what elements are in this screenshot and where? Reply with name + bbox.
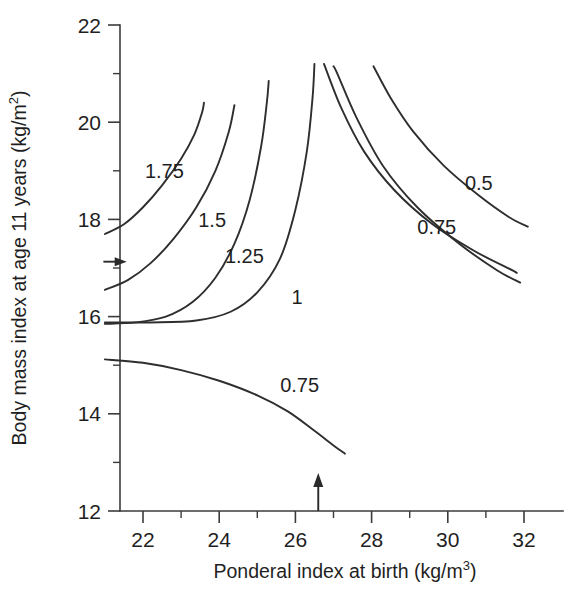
y-tick-label-20: 20: [78, 111, 101, 134]
x-axis-title-text: Ponderal index at birth (kg/m: [213, 560, 462, 582]
y-axis-title-text: Body mass index at age 11 years (kg/m: [8, 104, 30, 445]
y-tick-label-22: 22: [78, 14, 101, 37]
x-axis-tick-labels: 222426283032: [131, 528, 535, 551]
x-axis-ticks: [143, 511, 524, 523]
x-tick-label-28: 28: [360, 528, 383, 551]
contour-label-1: 1: [292, 286, 303, 308]
x-tick-label-32: 32: [512, 528, 535, 551]
contour-plot-figure: 121416182022 222426283032 1.751.51.2510.…: [0, 0, 571, 591]
x-axis-title: Ponderal index at birth (kg/m3): [213, 558, 476, 582]
contour-label-0-75-lower: 0.75: [280, 374, 319, 396]
x-tick-label-30: 30: [436, 528, 459, 551]
contour-0-5: [374, 66, 528, 226]
y-axis-title-superscript: 2: [6, 97, 21, 104]
x-axis-title-superscript: 3: [463, 558, 470, 573]
svg-text:Body mass index at age 11 year: Body mass index at age 11 years (kg/m2): [6, 91, 30, 446]
x-axis-arrow-marker-head: [313, 473, 323, 487]
contour-labels-group: 1.751.51.2510.50.750.75: [145, 160, 493, 396]
axes-group: [120, 25, 563, 511]
x-tick-label-22: 22: [131, 528, 154, 551]
svg-text:Ponderal index at birth (kg/m3: Ponderal index at birth (kg/m3): [213, 558, 476, 582]
contour-label-1-25: 1.25: [225, 245, 264, 267]
y-axis-ticks: [108, 25, 120, 511]
y-axis-title-tail: ): [8, 91, 30, 98]
y-axis-tick-labels: 121416182022: [78, 14, 102, 523]
contour-label-0-75-upper: 0.75: [417, 216, 456, 238]
x-tick-label-24: 24: [208, 528, 232, 551]
contour-label-1-75: 1.75: [145, 160, 184, 182]
y-axis-title: Body mass index at age 11 years (kg/m2): [6, 91, 30, 446]
contour-label-1-5: 1.5: [198, 209, 226, 231]
contour-1-25: [105, 81, 269, 324]
x-tick-label-26: 26: [284, 528, 307, 551]
y-tick-label-12: 12: [78, 500, 101, 523]
contour-upper-right-a: [324, 64, 517, 273]
plot-canvas: 121416182022 222426283032 1.751.51.2510.…: [0, 0, 571, 591]
x-axis-title-tail: ): [470, 560, 477, 582]
y-tick-label-16: 16: [78, 305, 101, 328]
y-tick-label-14: 14: [78, 402, 102, 425]
y-tick-label-18: 18: [78, 208, 101, 231]
contour-label-0-5: 0.5: [465, 172, 493, 194]
